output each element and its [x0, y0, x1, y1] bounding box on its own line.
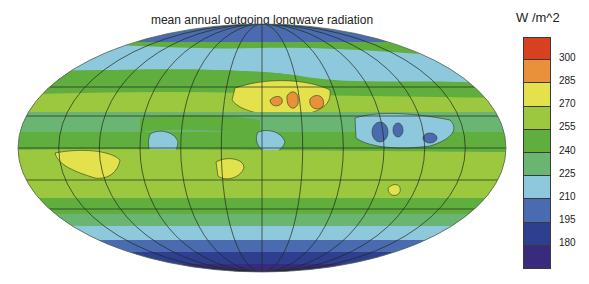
colorbar-swatch [524, 176, 550, 199]
colorbar-tick: 195 [559, 214, 576, 225]
colorbar-tick: 210 [559, 191, 576, 202]
colorbar-swatch [524, 60, 550, 83]
colorbar-swatch [524, 130, 550, 153]
colorbar-tick: 180 [559, 237, 576, 248]
colorbar-tick: 255 [559, 121, 576, 132]
colorbar-tick: 300 [559, 52, 576, 63]
colorbar-swatch [524, 83, 550, 106]
colorbar-swatch [524, 153, 550, 176]
colorbar-tick: 225 [559, 168, 576, 179]
colorbar-swatch [524, 223, 550, 246]
colorbar-tick: 285 [559, 75, 576, 86]
colorbar-swatch [524, 246, 550, 269]
colorbar-swatch [524, 37, 550, 60]
colorbar-tick: 270 [559, 98, 576, 109]
world-map [0, 0, 510, 284]
olr-field [0, 0, 510, 284]
colorbar-swatch [524, 199, 550, 222]
colorbar [523, 37, 551, 269]
colorbar-swatch [524, 107, 550, 130]
colorbar-unit: W /m^2 [516, 10, 560, 25]
colorbar-tick: 240 [559, 145, 576, 156]
